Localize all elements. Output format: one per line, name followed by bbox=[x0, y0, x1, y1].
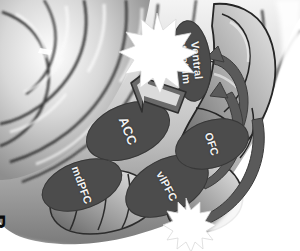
activation-burst-bottom bbox=[163, 198, 216, 251]
panel-letter: B bbox=[0, 214, 8, 230]
annotation-layer bbox=[0, 0, 300, 251]
figure-panel: ACC mdPFC vlPFC OFC Ventral striatum B bbox=[0, 0, 300, 251]
activation-burst-top bbox=[119, 13, 198, 94]
